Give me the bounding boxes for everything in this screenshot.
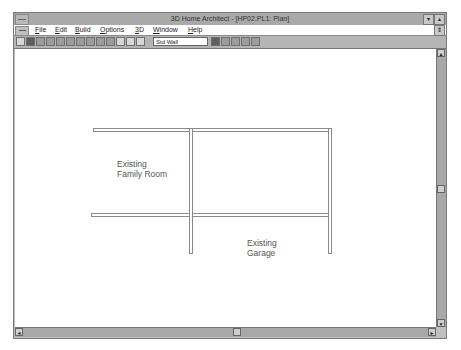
stairs-icon[interactable] — [96, 37, 105, 46]
maximize-button[interactable]: ▴ — [434, 14, 445, 25]
electrical-icon[interactable] — [86, 37, 95, 46]
vertical-scrollbar[interactable]: ▲ ▼ — [436, 49, 446, 327]
room-label-line: Family Room — [117, 169, 167, 179]
menu-file[interactable]: File — [35, 25, 46, 35]
furniture-icon[interactable] — [76, 37, 85, 46]
horizontal-scroll-thumb[interactable] — [233, 328, 241, 336]
select-icon[interactable] — [16, 37, 25, 46]
roof-icon[interactable] — [106, 37, 115, 46]
scroll-right-button[interactable]: ► — [428, 328, 436, 336]
scroll-left-button[interactable]: ◄ — [15, 328, 23, 336]
minimize-button[interactable]: ▾ — [423, 14, 434, 25]
scrollbar-corner — [436, 327, 446, 337]
room-label-line: Existing — [117, 159, 167, 169]
document-system-menu-button[interactable] — [15, 26, 29, 36]
menu-3d[interactable]: 3D — [135, 25, 144, 35]
wall-center-vertical[interactable] — [189, 128, 193, 254]
play-icon[interactable] — [136, 37, 145, 46]
menu-build[interactable]: Build — [75, 25, 91, 35]
scroll-down-button[interactable]: ▼ — [437, 319, 445, 327]
system-menu-button[interactable] — [15, 14, 29, 25]
document-menu-icon — [19, 30, 26, 31]
pencil-icon[interactable] — [231, 37, 240, 46]
text-icon[interactable] — [251, 37, 260, 46]
cabinet-icon[interactable] — [56, 37, 65, 46]
menu-options[interactable]: Options — [100, 25, 124, 35]
horizontal-scrollbar[interactable]: ◄ ► — [15, 327, 436, 337]
wall-top[interactable] — [93, 128, 332, 132]
vertical-scroll-thumb[interactable] — [437, 185, 445, 193]
room-label-garage: Existing Garage — [247, 238, 277, 258]
plan-canvas[interactable]: Existing Family Room Existing Garage — [15, 49, 436, 327]
menu-bar: File Edit Build Options 3D Window Help ⇕ — [14, 25, 446, 36]
room-label-family-room: Existing Family Room — [117, 159, 167, 179]
window-icon[interactable] — [46, 37, 55, 46]
room-label-line: Existing — [247, 238, 277, 248]
wall-right-vertical[interactable] — [328, 128, 332, 254]
scroll-up-button[interactable]: ▲ — [437, 49, 445, 57]
menu-window[interactable]: Window — [153, 25, 178, 35]
fill-icon[interactable] — [211, 37, 220, 46]
system-menu-icon — [18, 19, 26, 20]
slope-icon[interactable] — [221, 37, 230, 46]
zoom-icon[interactable] — [126, 37, 135, 46]
app-window: 3D Home Architect - [HP02.PL1: Plan] ▾ ▴… — [13, 12, 447, 339]
room-label-line: Garage — [247, 248, 277, 258]
menu-help[interactable]: Help — [188, 25, 202, 35]
wall-icon[interactable] — [26, 37, 35, 46]
dimension-icon[interactable] — [241, 37, 250, 46]
wall-middle[interactable] — [91, 213, 332, 217]
door-icon[interactable] — [36, 37, 45, 46]
window-title: 3D Home Architect - [HP02.PL1: Plan] — [171, 15, 289, 22]
wall-type-field[interactable]: Std Wall — [153, 37, 208, 46]
menu-edit[interactable]: Edit — [55, 25, 67, 35]
fixture-icon[interactable] — [66, 37, 75, 46]
document-restore-button[interactable]: ⇕ — [434, 25, 445, 36]
toolbar: Std Wall — [14, 36, 446, 49]
line-icon[interactable] — [116, 37, 125, 46]
